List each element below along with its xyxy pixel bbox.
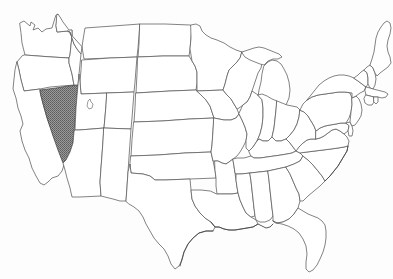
state-new-jersey[interactable] bbox=[350, 96, 362, 126]
state-kansas[interactable] bbox=[131, 118, 214, 156]
state-rhode-island[interactable] bbox=[374, 97, 378, 104]
state-washington[interactable] bbox=[20, 14, 72, 58]
us-states-map[interactable] bbox=[0, 0, 393, 279]
state-oregon[interactable] bbox=[17, 55, 74, 91]
state-south-dakota[interactable] bbox=[136, 56, 197, 93]
state-colorado[interactable] bbox=[104, 92, 134, 129]
state-texas[interactable] bbox=[126, 164, 215, 269]
state-maine[interactable] bbox=[370, 21, 391, 76]
state-wyoming[interactable] bbox=[80, 57, 137, 94]
state-missouri[interactable] bbox=[211, 114, 247, 164]
state-north-dakota[interactable] bbox=[138, 24, 192, 57]
us-map-figure: Map of the United States Outline map of … bbox=[0, 0, 393, 279]
state-new-mexico[interactable] bbox=[100, 128, 131, 201]
state-connecticut[interactable] bbox=[364, 95, 374, 105]
